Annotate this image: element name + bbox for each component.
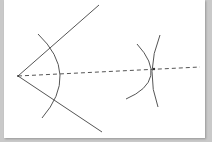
right-arc-2 — [152, 35, 160, 107]
intersection-point — [153, 68, 155, 70]
bisector-dashed-line — [18, 67, 200, 76]
lower-ray-line — [18, 76, 102, 132]
vertex-arc — [38, 34, 60, 118]
vertex-point — [17, 75, 19, 77]
angle-bisector-diagram — [0, 0, 212, 142]
right-arc-1 — [126, 44, 151, 99]
